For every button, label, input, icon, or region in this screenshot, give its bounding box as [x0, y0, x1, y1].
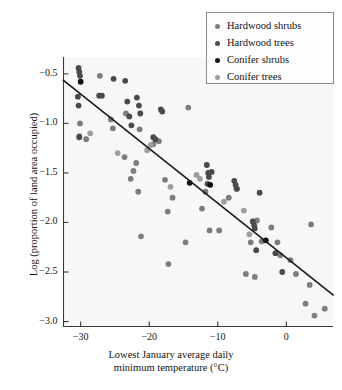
data-point	[207, 227, 213, 233]
data-point	[126, 114, 132, 120]
data-point	[137, 111, 143, 117]
data-point	[166, 261, 172, 267]
x-tick-label: −20	[129, 331, 169, 342]
data-point	[128, 176, 134, 182]
data-point	[87, 130, 93, 136]
data-point	[111, 76, 117, 82]
data-point	[77, 120, 83, 126]
x-axis-title-line1: Lowest January average daily	[0, 348, 342, 361]
data-point	[75, 94, 81, 100]
data-point	[246, 231, 252, 237]
data-point	[226, 195, 232, 201]
data-point	[97, 73, 103, 79]
y-tick-label: −3.0	[20, 315, 58, 326]
data-point	[170, 195, 176, 201]
data-point	[131, 168, 137, 174]
legend-label: Conifer shrubs	[227, 55, 289, 65]
data-point	[209, 169, 215, 175]
data-point	[216, 227, 222, 233]
data-point	[293, 271, 299, 277]
data-point	[76, 103, 82, 109]
data-point	[124, 99, 130, 105]
data-point	[199, 206, 205, 212]
data-point	[135, 189, 141, 195]
legend: Hardwood shrubs Hardwood trees Conifer s…	[206, 12, 334, 84]
data-point	[134, 95, 140, 101]
data-point	[133, 160, 139, 166]
y-tick-label: −2.0	[20, 215, 58, 226]
data-point	[99, 93, 105, 99]
data-point	[115, 150, 121, 156]
legend-item-conifer-trees: Conifer trees	[215, 69, 282, 85]
legend-label: Hardwood shrubs	[227, 21, 301, 31]
x-tick-label: −30	[61, 331, 101, 342]
data-point	[110, 125, 116, 131]
data-point	[197, 176, 203, 182]
data-point	[207, 182, 213, 188]
legend-marker-icon	[215, 41, 220, 46]
data-point	[252, 274, 258, 280]
data-point	[136, 103, 142, 109]
data-point	[83, 136, 89, 142]
y-tick-label: −1.5	[20, 166, 58, 177]
data-point	[312, 313, 318, 319]
data-point	[303, 301, 309, 307]
data-point	[128, 122, 134, 128]
y-tick-label: −1.0	[20, 116, 58, 127]
y-axis-title: Log (proportion of land area occupied)	[28, 70, 39, 320]
data-point	[307, 282, 313, 288]
data-point	[152, 136, 158, 142]
data-point	[159, 109, 165, 115]
x-axis-title-line2: minimum temperature (°C)	[0, 361, 342, 374]
y-tick-label: −2.5	[20, 265, 58, 276]
data-point	[168, 184, 174, 190]
data-point	[78, 79, 84, 85]
data-point	[234, 186, 240, 192]
legend-label: Conifer trees	[227, 72, 282, 82]
data-point	[308, 222, 314, 228]
data-point	[76, 134, 82, 140]
data-point	[137, 126, 143, 132]
data-point	[204, 162, 210, 168]
legend-item-conifer-shrubs: Conifer shrubs	[215, 52, 289, 68]
data-point	[185, 105, 191, 111]
legend-marker-icon	[215, 75, 220, 80]
data-point	[322, 306, 328, 312]
legend-item-hardwood-trees: Hardwood trees	[215, 35, 294, 51]
data-point	[257, 190, 263, 196]
legend-marker-icon	[215, 24, 220, 29]
data-point	[183, 239, 189, 245]
x-axis-title: Lowest January average daily minimum tem…	[0, 348, 342, 374]
data-point	[241, 208, 247, 214]
legend-marker-icon	[215, 58, 220, 63]
data-point	[279, 269, 285, 275]
x-tick-label: −10	[198, 331, 238, 342]
data-point	[243, 271, 249, 277]
data-point	[206, 174, 212, 180]
data-point	[138, 233, 144, 239]
y-tick-label: −0.5	[20, 67, 58, 78]
x-tick-label: 0	[266, 331, 306, 342]
data-point	[122, 78, 128, 84]
data-point	[275, 239, 281, 245]
data-point	[165, 209, 171, 215]
data-point	[162, 177, 168, 183]
legend-label: Hardwood trees	[227, 38, 294, 48]
data-point	[221, 199, 227, 205]
legend-item-hardwood-shrubs: Hardwood shrubs	[215, 18, 301, 34]
data-point	[253, 247, 259, 253]
data-point	[248, 239, 254, 245]
data-point	[77, 73, 83, 79]
data-point	[122, 154, 128, 160]
data-point	[268, 225, 274, 231]
